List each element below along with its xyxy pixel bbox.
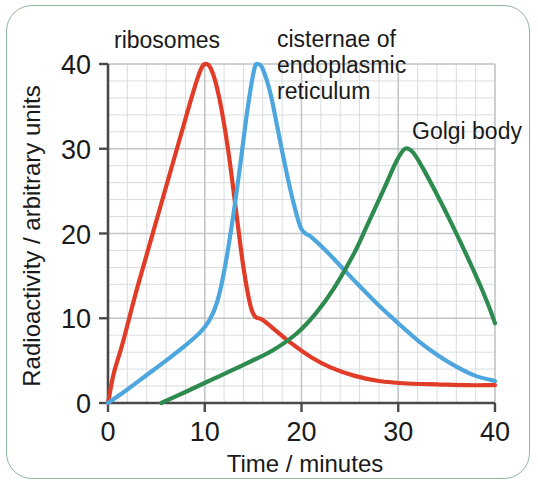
x-axis-title: Time / minutes [227, 450, 383, 477]
y-tick-label: 10 [61, 304, 91, 334]
x-tick-label: 20 [286, 417, 316, 447]
series-label-cisternae-line2: endoplasmic [277, 52, 406, 78]
chart-figure: 010203040 010203040 Time / minutes Radio… [0, 0, 538, 487]
series-label-ribosomes: ribosomes [114, 27, 220, 53]
x-tick-label: 30 [383, 417, 413, 447]
y-axis-title: Radioactivity / arbitrary units [18, 85, 45, 386]
series-label-golgi-body: Golgi body [412, 118, 522, 144]
x-tick-label: 0 [100, 417, 115, 447]
x-axis-tick-labels: 010203040 [100, 417, 510, 447]
series-label-cisternae-line3: reticulum [277, 78, 370, 104]
y-tick-label: 0 [76, 389, 91, 419]
y-tick-label: 40 [61, 50, 91, 80]
y-tick-label: 20 [61, 220, 91, 250]
line-chart: 010203040 010203040 Time / minutes Radio… [0, 0, 538, 487]
x-tick-label: 10 [190, 417, 220, 447]
axis-tick-marks [99, 64, 495, 412]
x-tick-label: 40 [480, 417, 510, 447]
y-tick-label: 30 [61, 135, 91, 165]
series-label-cisternae-line1: cisternae of [277, 26, 397, 52]
y-axis-tick-labels: 010203040 [61, 50, 91, 419]
